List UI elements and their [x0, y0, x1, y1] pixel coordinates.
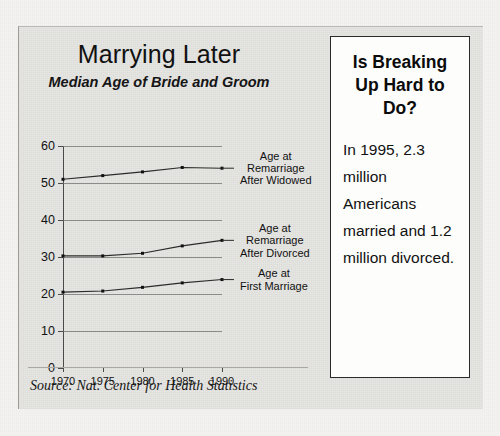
- callout-line: First Marriage: [240, 280, 308, 292]
- callout-line: Age at: [240, 222, 310, 234]
- y-tick-label: 60: [41, 139, 55, 153]
- x-tick: [103, 368, 104, 372]
- data-point: [62, 254, 65, 257]
- series-paths: [63, 146, 222, 368]
- callout-line: Age at: [240, 267, 308, 279]
- data-point: [141, 252, 144, 255]
- data-point: [141, 170, 144, 173]
- data-point: [101, 254, 104, 257]
- sidebar-heading: Is Breaking Up Hard to Do?: [343, 51, 457, 120]
- source-note: Source: Nat. Center for Health Statistic…: [30, 378, 257, 394]
- data-point: [101, 290, 104, 293]
- sidebar-body-text: In 1995, 2.3 million Americans married a…: [343, 136, 457, 271]
- y-tick-label: 50: [41, 176, 55, 190]
- y-tick-label: 40: [41, 213, 55, 227]
- data-point: [181, 166, 184, 169]
- chart-title: Marrying Later: [18, 40, 300, 69]
- data-point: [62, 291, 65, 294]
- series-callout-2: Age atFirst Marriage: [240, 267, 308, 292]
- callout-line: Remarriage: [240, 234, 310, 246]
- data-point: [181, 244, 184, 247]
- callout-line: After Divorced: [240, 247, 310, 259]
- chart-panel: Marrying Later Median Age of Bride and G…: [18, 26, 318, 408]
- data-point: [101, 174, 104, 177]
- sidebar-callout-box: Is Breaking Up Hard to Do? In 1995, 2.3 …: [330, 36, 470, 378]
- x-tick: [182, 368, 183, 372]
- data-point: [141, 286, 144, 289]
- callout-line: Remarriage: [240, 162, 312, 174]
- callout-line: After Widowed: [240, 174, 312, 186]
- data-point: [62, 178, 65, 181]
- x-tick: [222, 368, 223, 372]
- line-chart-plot: 0102030405060 19701975198019851990: [63, 146, 222, 368]
- series-callout-1: Age atRemarriageAfter Divorced: [240, 222, 310, 259]
- callout-line: Age at: [240, 150, 312, 162]
- series-callout-0: Age atRemarriageAfter Widowed: [240, 150, 312, 187]
- x-tick: [63, 368, 64, 372]
- y-tick-label: 20: [41, 287, 55, 301]
- y-tick-label: 30: [41, 250, 55, 264]
- chart-subtitle: Median Age of Bride and Groom: [18, 74, 300, 90]
- x-tick: [143, 368, 144, 372]
- scanned-page: Marrying Later Median Age of Bride and G…: [0, 0, 500, 436]
- data-point: [181, 281, 184, 284]
- y-tick-label: 0: [48, 361, 55, 375]
- y-tick-label: 10: [41, 324, 55, 338]
- footer-divider: [28, 367, 308, 368]
